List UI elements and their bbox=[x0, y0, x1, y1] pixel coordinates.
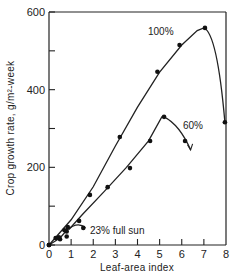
x-axis-title: Leaf-area index bbox=[100, 262, 174, 273]
curves bbox=[49, 28, 225, 245]
data-point bbox=[81, 226, 86, 231]
x-tick-label: 8 bbox=[223, 248, 229, 260]
x-tick-label: 2 bbox=[90, 248, 96, 260]
data-point bbox=[66, 225, 71, 230]
data-point bbox=[57, 235, 62, 240]
data-point bbox=[118, 135, 123, 140]
data-point bbox=[162, 115, 167, 120]
chart: 0200400600 012345678 100% 60% 23% full s… bbox=[0, 0, 238, 280]
data-point bbox=[203, 26, 208, 31]
curve-100-percent bbox=[49, 28, 225, 245]
data-point bbox=[155, 70, 160, 75]
x-axis-ticks: 012345678 bbox=[46, 239, 229, 260]
data-point bbox=[223, 120, 228, 125]
data-point bbox=[77, 219, 82, 224]
curve-60-percent bbox=[69, 117, 191, 230]
x-tick-label: 4 bbox=[134, 248, 140, 260]
data-point bbox=[177, 43, 182, 48]
data-point bbox=[183, 139, 188, 144]
data-point bbox=[64, 234, 69, 239]
data-point bbox=[128, 166, 133, 171]
data-point bbox=[148, 139, 153, 144]
data-points bbox=[47, 26, 227, 248]
x-tick-label: 5 bbox=[157, 248, 163, 260]
data-point bbox=[47, 243, 52, 248]
label-100-percent: 100% bbox=[148, 26, 174, 37]
label-60-percent: 60% bbox=[183, 120, 203, 131]
y-tick-label: 0 bbox=[39, 239, 45, 251]
y-axis-title: Crop growth rate, g/m²-week bbox=[5, 60, 16, 196]
y-tick-label: 200 bbox=[27, 161, 45, 173]
y-tick-label: 600 bbox=[27, 6, 45, 18]
data-point bbox=[88, 193, 93, 198]
x-tick-label: 7 bbox=[201, 248, 207, 260]
y-axis-ticks: 0200400600 bbox=[27, 6, 55, 251]
label-23-percent: 23% full sun bbox=[90, 225, 144, 236]
x-tick-label: 6 bbox=[179, 248, 185, 260]
y-tick-label: 400 bbox=[27, 84, 45, 96]
x-tick-label: 1 bbox=[68, 248, 74, 260]
x-tick-label: 0 bbox=[46, 248, 52, 260]
x-tick-label: 3 bbox=[112, 248, 118, 260]
data-point bbox=[105, 185, 110, 190]
